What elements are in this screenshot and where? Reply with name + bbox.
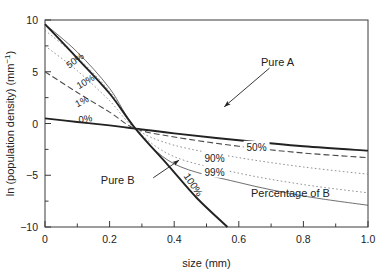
y-tick-label: 5 — [32, 66, 38, 78]
annotation-pure-b: Pure B — [101, 174, 135, 186]
x-tick-label: 0 — [42, 233, 48, 245]
y-tick-label: −5 — [26, 169, 38, 181]
y-axis-title-superscript: −1 — [3, 54, 12, 64]
y-tick-label: −10 — [20, 221, 38, 233]
curve-50- — [45, 72, 368, 158]
x-tick-label: 0.8 — [296, 233, 311, 245]
annotation-percentage-of-b: Percentage of B — [251, 187, 330, 199]
annotation-pure-a: Pure A — [261, 56, 295, 68]
x-tick-label: 0.6 — [231, 233, 246, 245]
y-tick-label: 10 — [26, 14, 38, 26]
annotation-arrow — [224, 68, 269, 107]
figure-container: 00.20.40.60.81.0−10−50510 size (mm)ln (p… — [0, 0, 384, 271]
y-axis-title: ln (population density) (mm−1) — [3, 51, 17, 196]
curve-pure-a — [45, 118, 368, 150]
x-axis-title: size (mm) — [182, 257, 230, 269]
curve-label-left-0pct: 0% — [78, 112, 94, 125]
curve-label-right-99pct: 99% — [205, 167, 225, 178]
curve-label-left-50pct: 50% — [64, 50, 86, 70]
curve-label-right-50pct: 50% — [247, 142, 267, 153]
x-tick-label: 1.0 — [361, 233, 376, 245]
x-tick-label: 0.4 — [167, 233, 182, 245]
curve-label-right-90pct: 90% — [205, 153, 225, 164]
line-chart: 00.20.40.60.81.0−10−50510 size (mm)ln (p… — [0, 0, 384, 271]
curve-label-left-1pct: 1% — [73, 93, 91, 109]
y-tick-label: 0 — [32, 118, 38, 130]
x-tick-label: 0.2 — [102, 233, 117, 245]
